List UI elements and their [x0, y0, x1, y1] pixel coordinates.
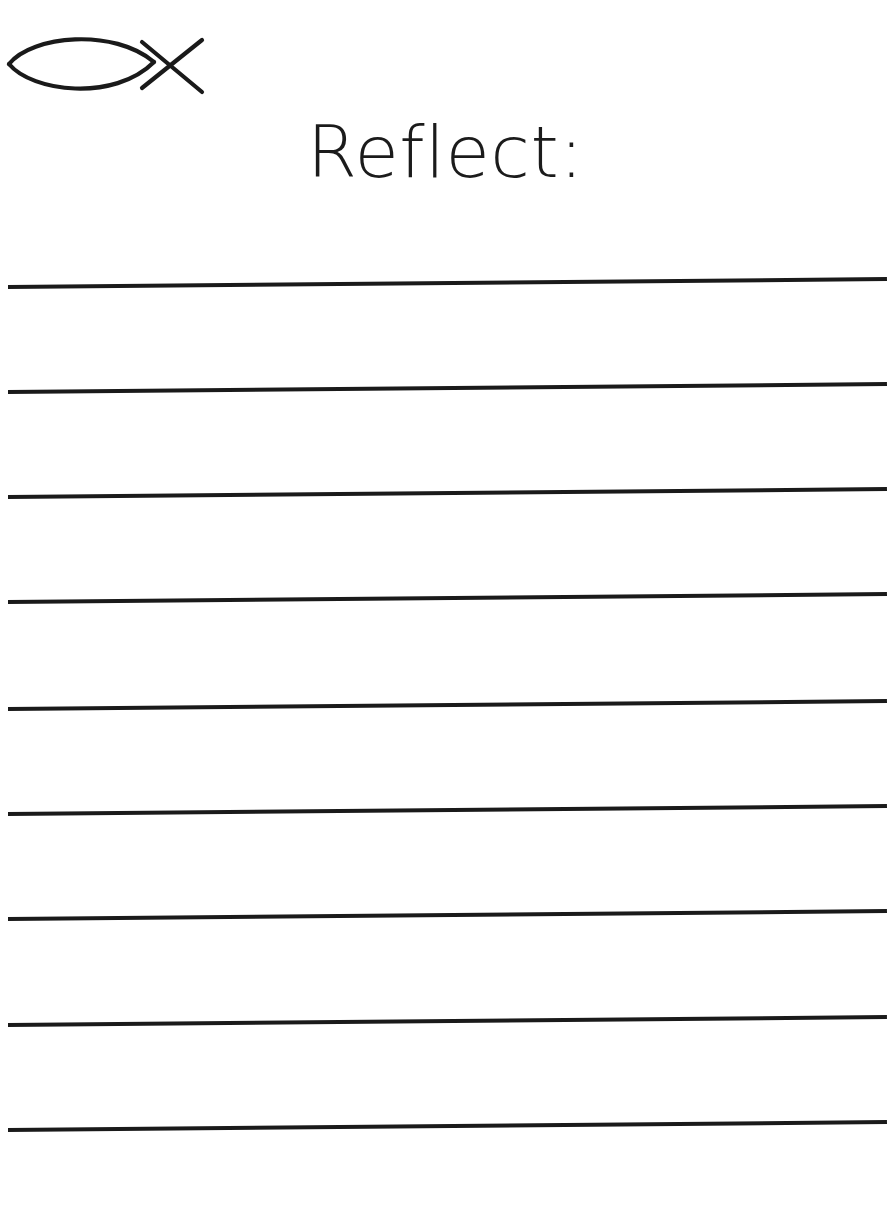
writing-line[interactable] [8, 804, 887, 816]
writing-line[interactable] [8, 382, 887, 394]
writing-line[interactable] [8, 909, 887, 921]
writing-line[interactable] [8, 699, 887, 711]
writing-lines-area [0, 0, 891, 1219]
writing-line[interactable] [8, 1120, 887, 1132]
writing-line[interactable] [8, 592, 887, 604]
writing-line[interactable] [8, 1015, 887, 1027]
writing-line[interactable] [8, 277, 887, 289]
writing-line[interactable] [8, 487, 887, 499]
worksheet-page: Reflect: [0, 0, 891, 1219]
